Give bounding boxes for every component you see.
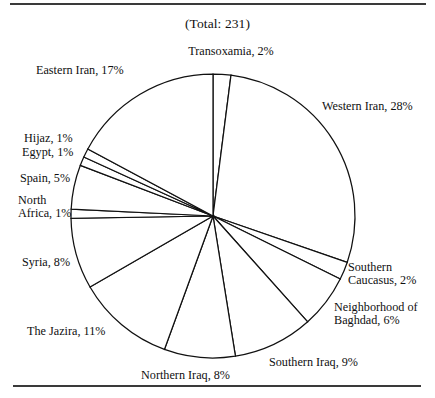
pie-slice-label: Southern Caucasus, 2% xyxy=(348,261,435,288)
pie-slice-label: Transoxamia, 2% xyxy=(176,45,286,58)
pie-slice-label: Eastern Iran, 17% xyxy=(36,64,151,77)
pie-slice-label: North Africa, 1% xyxy=(18,194,90,221)
pie-slice-label: Neighborhood of Baghdad, 6% xyxy=(334,301,435,328)
pie-slice-label: Northern Iraq, 8% xyxy=(141,369,253,382)
pie-slice-label: Syria, 8% xyxy=(22,256,92,269)
pie-slice-label: The Jazira, 11% xyxy=(27,325,127,338)
pie-slices-group xyxy=(71,74,355,358)
pie-slice-label: Southern Iraq, 9% xyxy=(269,356,379,369)
bottom-divider-rule xyxy=(13,385,421,387)
pie-slice-label: Spain, 5% xyxy=(20,172,90,185)
pie-chart-figure: (Total: 231) Transoxamia, 2%Western Iran… xyxy=(0,0,435,398)
pie-slice-label: Egypt, 1% xyxy=(22,146,92,159)
pie-slice-label: Western Iran, 28% xyxy=(322,100,435,113)
pie-slice-label: Hijaz, 1% xyxy=(24,132,94,145)
